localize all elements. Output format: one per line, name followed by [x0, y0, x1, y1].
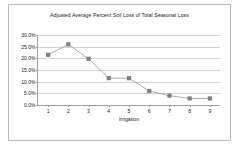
- x-axis-title: Irrigation: [38, 116, 220, 122]
- data-point-marker: [46, 53, 50, 57]
- y-axis-tick-label: 20.0%: [21, 55, 35, 61]
- x-axis-tick-label: 1: [47, 108, 50, 114]
- x-axis-tick-mark: [210, 105, 211, 107]
- data-point-marker: [208, 96, 212, 100]
- chart-title: Adjusted Average Percent Soil Loss of To…: [9, 12, 230, 18]
- y-axis-tick-label: 0.0%: [24, 102, 35, 108]
- x-axis-tick-label: 4: [107, 108, 110, 114]
- chart-container: Adjusted Average Percent Soil Loss of To…: [8, 4, 231, 141]
- plot-area: 30.0%25.0%20.0%15.0%10.0%5.0%0.0% 123456…: [37, 35, 220, 106]
- y-axis-tick-mark: [36, 105, 38, 106]
- series-line: [48, 44, 210, 98]
- data-point-marker: [188, 96, 192, 100]
- x-axis-tick-label: 2: [67, 108, 70, 114]
- x-axis-tick-label: 5: [128, 108, 131, 114]
- series-markers: [46, 42, 212, 100]
- x-axis-tick-label: 8: [188, 108, 191, 114]
- x-axis-tick-mark: [68, 105, 69, 107]
- data-point-marker: [147, 89, 151, 93]
- data-point-marker: [86, 57, 90, 61]
- y-axis-tick-label: 25.0%: [21, 44, 35, 50]
- y-axis-tick-label: 15.0%: [21, 67, 35, 73]
- x-axis-tick-mark: [190, 105, 191, 107]
- x-axis-tick-mark: [169, 105, 170, 107]
- x-axis-tick-label: 7: [168, 108, 171, 114]
- y-axis-tick-label: 5.0%: [24, 90, 35, 96]
- y-axis-tick-label: 10.0%: [21, 79, 35, 85]
- data-point-marker: [107, 76, 111, 80]
- x-axis-tick-mark: [48, 105, 49, 107]
- x-axis-tick-mark: [89, 105, 90, 107]
- x-axis-tick-mark: [129, 105, 130, 107]
- data-point-marker: [66, 42, 70, 46]
- data-point-marker: [167, 94, 171, 98]
- x-axis-tick-mark: [109, 105, 110, 107]
- data-series: [38, 35, 220, 105]
- y-axis-tick-label: 30.0%: [21, 32, 35, 38]
- data-point-marker: [127, 76, 131, 80]
- x-axis-tick-label: 3: [87, 108, 90, 114]
- x-axis-tick-mark: [149, 105, 150, 107]
- x-axis-tick-label: 9: [208, 108, 211, 114]
- x-axis-tick-label: 6: [148, 108, 151, 114]
